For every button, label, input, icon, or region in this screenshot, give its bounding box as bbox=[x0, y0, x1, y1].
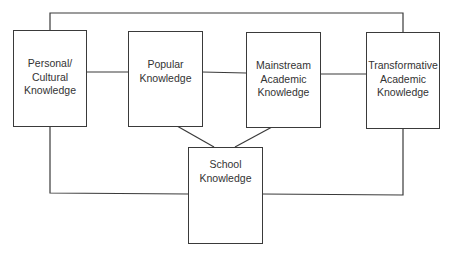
edge-popular-school bbox=[177, 126, 214, 147]
edge-mainstream-school bbox=[235, 127, 272, 147]
node-label: Mainstream Academic Knowledge bbox=[256, 59, 311, 100]
node-school-knowledge: School Knowledge bbox=[188, 147, 263, 244]
edge-popular-mainstream bbox=[202, 72, 246, 73]
node-label: Personal/ Cultural Knowledge bbox=[24, 57, 76, 98]
edge-personal-transformative bbox=[50, 13, 403, 32]
node-label: Popular Knowledge bbox=[140, 58, 192, 85]
node-label: School Knowledge bbox=[200, 158, 252, 185]
node-mainstream-academic-knowledge: Mainstream Academic Knowledge bbox=[246, 32, 321, 128]
node-popular-knowledge: Popular Knowledge bbox=[128, 31, 203, 127]
edge-transformative-school bbox=[262, 128, 403, 195]
node-personal-cultural-knowledge: Personal/ Cultural Knowledge bbox=[13, 30, 87, 127]
edge-personal-school bbox=[50, 126, 188, 194]
node-transformative-academic-knowledge: Transformative Academic Knowledge bbox=[366, 32, 440, 129]
node-label: Transformative Academic Knowledge bbox=[368, 59, 438, 100]
